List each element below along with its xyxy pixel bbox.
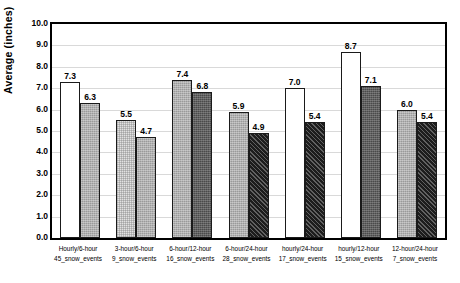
category-label-line2: 9_snow_events [106,254,162,264]
bar-value-label: 5.9 [225,101,253,111]
x-axis-category-label: 6-hour/12-hour16_snow_events [162,244,218,263]
bar-value-label: 5.5 [112,109,140,119]
category-label-line1: 12-hour/24-hour [387,244,443,254]
y-tick-label: 10.0 [22,18,48,28]
bar-value-label: 7.3 [56,71,84,81]
y-tick-label: 0.0 [22,232,48,242]
x-axis-category-label: hourly/24-hour17_snow_events [275,244,331,263]
bar [172,80,192,238]
bar-value-label: 8.7 [337,41,365,51]
bar-value-label: 7.1 [357,75,385,85]
category-label-line1: 6-hour/24-hour [218,244,274,254]
category-label-line2: 45_snow_events [50,254,106,264]
bar-value-label: 7.4 [168,69,196,79]
x-axis-category-labels: Hourly/6-hour45_snow_events3-hour/6-hour… [50,244,447,278]
x-axis-category-label: 6-hour/24-hour28_snow_events [218,244,274,263]
y-axis-title-text: Average (inches) [2,78,14,94]
y-tick-label: 8.0 [22,61,48,71]
category-label-line1: Hourly/6-hour [50,244,106,254]
bar [417,122,437,238]
x-axis-category-label: Hourly/6-hour45_snow_events [50,244,106,263]
x-axis-category-label: hourly/12-hour15_snow_events [331,244,387,263]
bar [80,103,100,238]
category-label-line2: 28_snow_events [218,254,274,264]
bar [361,86,381,238]
category-label-line1: 6-hour/12-hour [162,244,218,254]
bar-value-label: 6.0 [393,99,421,109]
y-tick-label: 3.0 [22,168,48,178]
y-tick-label: 7.0 [22,82,48,92]
y-tick-label: 4.0 [22,146,48,156]
category-label-line2: 7_snow_events [387,254,443,264]
x-axis-category-label: 3-hour/6-hour9_snow_events [106,244,162,263]
bar [60,82,80,238]
y-tick-label: 6.0 [22,104,48,114]
y-tick-label: 9.0 [22,39,48,49]
bar-value-label: 4.7 [132,126,160,136]
bar [397,110,417,238]
bar-chart: Average (inches) 10.09.08.07.06.05.04.03… [0,0,460,283]
y-tick-label: 2.0 [22,189,48,199]
bar-value-label: 5.4 [301,111,329,121]
bar [136,137,156,238]
bar-value-label: 5.4 [413,111,441,121]
bar-value-label: 4.9 [245,122,273,132]
bar-value-label: 6.3 [76,92,104,102]
bar [249,133,269,238]
bar [116,120,136,238]
category-label-line1: hourly/12-hour [331,244,387,254]
category-label-line1: hourly/24-hour [275,244,331,254]
bar [305,122,325,238]
y-axis-title: Average (inches) [2,62,14,78]
plot-area: 7.36.35.54.77.46.85.94.97.05.48.77.16.05… [50,22,447,240]
bar [192,92,212,238]
y-tick-label: 1.0 [22,211,48,221]
y-tick-label: 5.0 [22,125,48,135]
bar-value-label: 7.0 [281,77,309,87]
category-label-line2: 17_snow_events [275,254,331,264]
bars-layer: 7.36.35.54.77.46.85.94.97.05.48.77.16.05… [52,24,445,238]
bar-value-label: 6.8 [188,81,216,91]
category-label-line2: 16_snow_events [162,254,218,264]
y-axis-tick-labels: 10.09.08.07.06.05.04.03.02.01.00.0 [18,0,48,283]
x-axis-category-label: 12-hour/24-hour7_snow_events [387,244,443,263]
category-label-line1: 3-hour/6-hour [106,244,162,254]
category-label-line2: 15_snow_events [331,254,387,264]
